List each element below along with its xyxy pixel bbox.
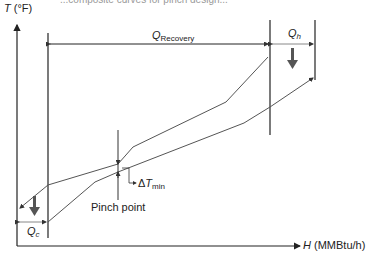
delta-t-min-label: ΔTmin [138, 177, 165, 191]
q-recovery-label: QRecovery [152, 29, 194, 43]
delta-t-min-leader [122, 168, 136, 183]
q-h-label: Qh [288, 27, 301, 41]
y-axis-label: T (°F) [4, 2, 32, 14]
pinch-point-label: Pinch point [91, 201, 145, 213]
heating-arrow-icon [287, 48, 298, 69]
q-c-label: Qc [27, 225, 40, 239]
cold-composite-curve [48, 78, 313, 222]
x-axis-label: H (MMBtu/h) [303, 239, 365, 251]
